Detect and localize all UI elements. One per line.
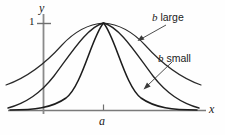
curve-b-medium <box>8 23 199 108</box>
annotation-b-small: b small <box>158 53 191 64</box>
y-axis-label: y <box>39 2 44 14</box>
leader-b-large <box>138 25 167 41</box>
annotation-b-small-text: small <box>164 52 191 64</box>
figure-bell-curves: y x a 1 b large b small <box>0 0 225 135</box>
annotation-b-large: b large <box>152 12 184 23</box>
x-axis-label: x <box>209 103 214 115</box>
annotation-b-large-text: large <box>158 11 184 23</box>
x-tick-label-a: a <box>99 115 105 127</box>
y-tick-label-one: 1 <box>29 16 35 27</box>
leader-b-small <box>144 62 173 90</box>
curve-b-small <box>10 23 197 110</box>
